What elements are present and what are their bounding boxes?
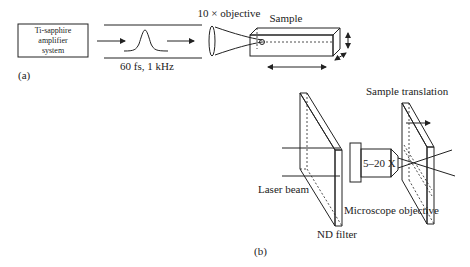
panel-b: 5–20 X Sample translation Laser beam Mic… xyxy=(254,85,455,258)
panel-b-label: (b) xyxy=(254,245,267,258)
source-box-line2: amplifier xyxy=(38,36,68,45)
translation-z-arrow-icon xyxy=(335,53,346,60)
panel-a-label: (a) xyxy=(18,69,31,82)
panel-a: Ti-sapphire amplifier system 60 fs, 1 kH… xyxy=(18,7,348,82)
nd-filter-slab xyxy=(300,93,342,226)
pulse-label: 60 fs, 1 kHz xyxy=(120,60,174,72)
laser-beam-label: Laser beam xyxy=(258,183,309,195)
sample-block xyxy=(250,28,340,56)
source-box-line3: system xyxy=(42,46,65,55)
output-beam-2 xyxy=(398,150,452,168)
source-box-line1: Ti-sapphire xyxy=(35,26,72,35)
gaussian-pulse-icon xyxy=(124,30,168,51)
diagram-canvas: Ti-sapphire amplifier system 60 fs, 1 kH… xyxy=(0,0,470,267)
focus-cone-lower xyxy=(215,42,262,55)
magnification-label: 5–20 X xyxy=(363,157,396,169)
sample-translation-label: Sample translation xyxy=(366,85,449,97)
sample-label: Sample xyxy=(270,12,303,24)
microscope-objective-label: Microscope objective xyxy=(344,204,439,216)
focus-cone xyxy=(215,27,262,40)
nd-filter-label: ND filter xyxy=(317,228,357,240)
objective-label: 10 × objective xyxy=(197,7,260,19)
objective-lens-icon xyxy=(209,26,215,56)
